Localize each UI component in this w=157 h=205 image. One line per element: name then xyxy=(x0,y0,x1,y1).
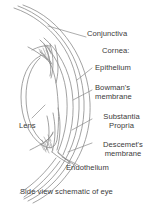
label-conjunctiva: Conjunctiva xyxy=(87,29,127,38)
label-epithelium: Epithelium xyxy=(95,63,131,72)
eye-schematic-figure: Conjunctiva Cornea: Epithelium Bowman's … xyxy=(0,0,157,205)
label-bowmans-membrane: Bowman's membrane xyxy=(95,83,132,102)
eye-anatomy-drawing xyxy=(0,0,157,205)
angle-hatching-top xyxy=(39,45,51,62)
label-cornea-group: Cornea: xyxy=(102,46,129,55)
figure-caption: Side view schematic of eye xyxy=(20,187,113,196)
label-descemets-membrane: Descemet's membrane xyxy=(94,140,152,159)
label-endothelium: Endothelium xyxy=(66,163,109,172)
sclera-outer-curve xyxy=(23,5,90,203)
label-substantia-propria: Substantia Propria xyxy=(94,112,149,131)
label-lens: Lens xyxy=(19,121,36,130)
leader-epithelium xyxy=(77,68,92,80)
leader-conjunctiva xyxy=(48,26,86,37)
leader-lens xyxy=(32,105,45,118)
